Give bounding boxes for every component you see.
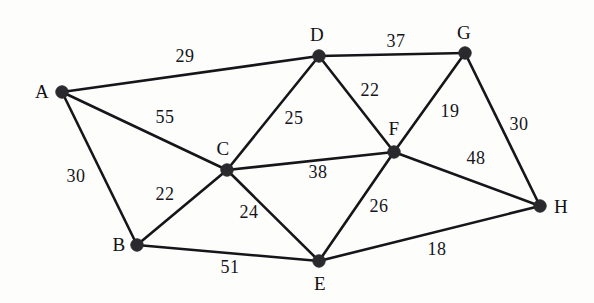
edge-weight-c-f: 38: [309, 163, 328, 181]
edge-b-c: [137, 170, 227, 245]
edge-weight-c-e: 24: [240, 203, 259, 221]
edge-weight-a-d: 29: [176, 47, 195, 65]
vertex-label-f: F: [389, 119, 400, 138]
vertex-f: [388, 146, 400, 158]
vertex-a: [56, 86, 68, 98]
edge-weight-d-f: 22: [361, 81, 380, 99]
edge-weight-d-g: 37: [387, 32, 406, 50]
edge-a-c: [62, 92, 227, 170]
vertex-label-c: C: [217, 139, 230, 158]
edge-weight-c-d: 25: [285, 109, 304, 127]
edge-d-f: [319, 56, 394, 152]
vertex-g: [459, 47, 471, 59]
vertex-label-a: A: [35, 82, 49, 101]
vertex-h: [534, 200, 546, 212]
edge-c-d: [227, 56, 319, 170]
vertex-label-b: B: [113, 235, 126, 254]
edge-weight-f-h: 48: [467, 149, 486, 167]
edge-weight-a-c: 55: [156, 108, 175, 126]
edge-d-g: [319, 53, 465, 56]
edge-weight-b-c: 22: [156, 185, 175, 203]
vertex-label-h: H: [554, 197, 568, 216]
vertex-c: [221, 164, 233, 176]
edge-weight-g-h: 30: [510, 115, 529, 133]
vertex-label-d: D: [310, 25, 324, 44]
edge-weight-f-g: 19: [441, 102, 460, 120]
graph-canvas: [0, 0, 594, 303]
edge-weight-b-e: 51: [221, 258, 240, 276]
vertex-b: [131, 239, 143, 251]
vertex-e: [313, 255, 325, 267]
vertex-label-e: E: [314, 274, 326, 293]
vertex-d: [313, 50, 325, 62]
edge-weight-a-b: 30: [67, 167, 86, 185]
vertex-label-g: G: [457, 23, 471, 42]
edge-weight-e-h: 18: [428, 240, 447, 258]
graph-diagram: 295530225125243822371926483018ABCDEFGH: [0, 0, 594, 303]
edge-weight-f-e: 26: [370, 197, 389, 215]
